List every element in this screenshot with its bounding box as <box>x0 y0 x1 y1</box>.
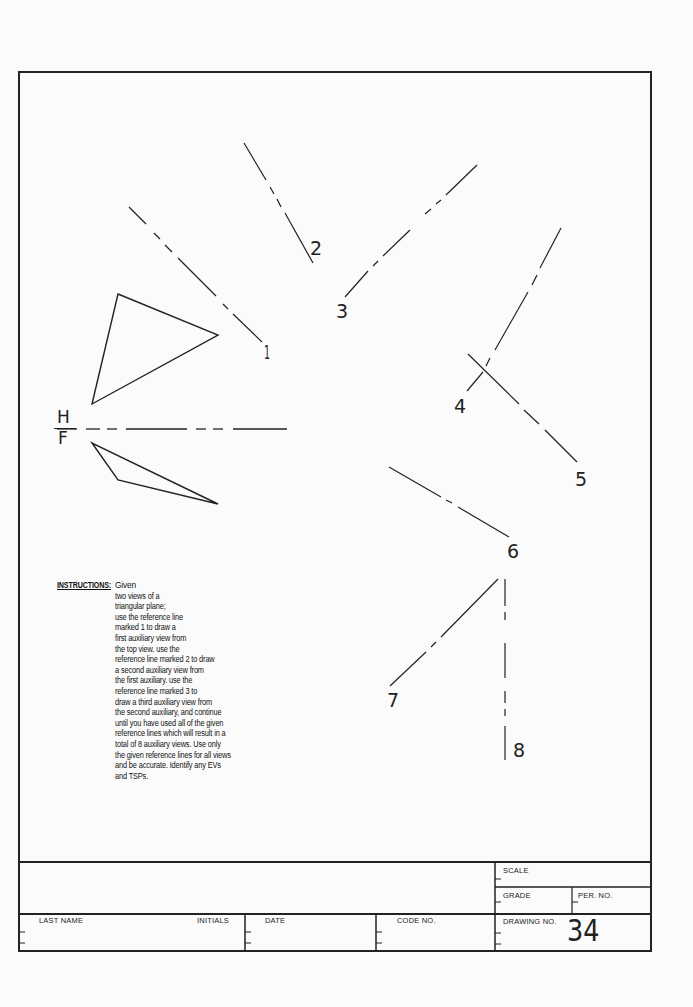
instructions-line: use the reference line <box>115 612 309 623</box>
instructions-line: reference line marked 2 to draw <box>115 654 309 665</box>
per-no-field[interactable]: PER. NO. <box>578 891 613 900</box>
instructions-block: INSTRUCTIONS:Given two views of a triang… <box>57 580 335 781</box>
top-view-triangle <box>92 294 218 404</box>
reference-line-6 <box>389 467 509 537</box>
instructions-line: draw a third auxiliary view from <box>115 697 309 708</box>
reference-label-3: 3 <box>336 302 348 321</box>
instructions-line: the first auxiliary. use the <box>115 675 309 686</box>
instructions-line: reference lines which will result in a <box>115 728 309 739</box>
instructions-line: two views of a <box>115 591 309 602</box>
instructions-line: reference line marked 3 to <box>115 686 309 697</box>
instructions-line: the second auxiliary, and continue <box>115 707 309 718</box>
instructions-line: and TSPs. <box>115 771 309 782</box>
instructions-line: and be accurate. Identify any EVs <box>115 760 309 771</box>
fold-label-h: H <box>57 409 70 426</box>
reference-label-5: 5 <box>575 470 587 489</box>
drawing-sheet <box>0 0 693 1007</box>
front-view-triangle <box>92 443 218 504</box>
reference-line-1 <box>129 207 262 342</box>
code-no-field[interactable]: CODE NO. <box>397 916 436 925</box>
instructions-line: first auxiliary view from <box>115 633 309 644</box>
instructions-line: total of 8 auxiliary views. Use only <box>115 739 309 750</box>
reference-line-3 <box>345 165 477 297</box>
instructions-line: until you have used all of the given <box>115 718 309 729</box>
reference-label-1: 1 <box>264 343 270 362</box>
instructions-line: the given reference lines for all views <box>115 750 309 761</box>
reference-line-7 <box>390 579 498 686</box>
reference-line-2 <box>244 143 313 263</box>
reference-line-5 <box>468 354 577 462</box>
reference-label-8: 8 <box>513 741 525 760</box>
reference-label-2: 2 <box>310 239 322 258</box>
instructions-line: Given <box>115 580 136 590</box>
reference-label-4: 4 <box>454 397 466 416</box>
drawing-number: 34 <box>567 916 599 946</box>
scale-field[interactable]: SCALE <box>503 866 529 875</box>
grade-field[interactable]: GRADE <box>503 891 531 900</box>
drawing-no-label: DRAWING NO. <box>503 917 557 926</box>
reference-label-7: 7 <box>387 691 399 710</box>
instructions-line: a second auxiliary view from <box>115 665 309 676</box>
instructions-heading: INSTRUCTIONS: <box>57 580 106 591</box>
instructions-line: triangular plane; <box>115 601 309 612</box>
fold-label-f: F <box>58 430 68 447</box>
instructions-line: marked 1 to draw a <box>115 622 309 633</box>
initials-field[interactable]: INITIALS <box>197 916 229 925</box>
date-field[interactable]: DATE <box>265 916 285 925</box>
instructions-line: the top view. use the <box>115 644 309 655</box>
last-name-field[interactable]: LAST NAME <box>39 916 83 925</box>
field-tick-marks <box>19 879 578 944</box>
sheet-border <box>19 72 651 951</box>
reference-label-6: 6 <box>507 542 519 561</box>
